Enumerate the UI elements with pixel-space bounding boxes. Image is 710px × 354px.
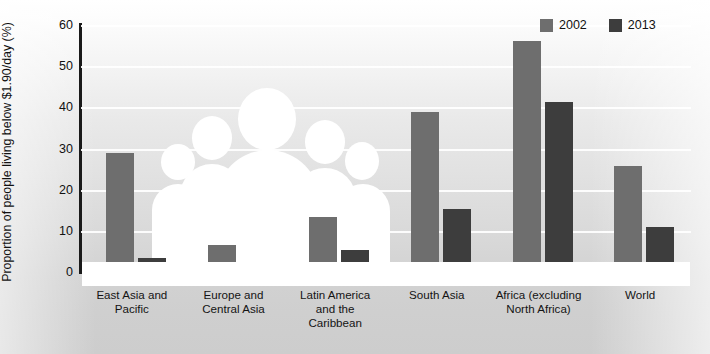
x-axis-label-5: World	[581, 288, 699, 302]
x-axis-label-1: Europe and Central Asia	[175, 288, 293, 316]
legend-label: 2002	[559, 18, 587, 32]
bar-2002-0[interactable]	[106, 153, 134, 272]
legend-swatch-icon	[540, 19, 553, 32]
plot-area: 0102030405060	[81, 25, 691, 272]
bar-2013-4[interactable]	[545, 102, 573, 272]
y-tick-label: 30	[39, 142, 73, 156]
gridline	[81, 149, 691, 151]
bar-2002-5[interactable]	[614, 166, 642, 272]
legend-label: 2013	[628, 18, 656, 32]
gridline	[81, 190, 691, 192]
y-tick-label: 60	[39, 18, 73, 32]
x-axis-labels: East Asia and PacificEurope and Central …	[81, 288, 691, 350]
y-tick-label: 40	[39, 100, 73, 114]
y-tick-label: 10	[39, 224, 73, 238]
chart-figure: Proportion of people living below $1.90/…	[0, 0, 710, 354]
y-tick-label: 20	[39, 183, 73, 197]
x-axis-label-2: Latin America and the Caribbean	[276, 288, 394, 330]
legend: 2002 2013	[540, 18, 656, 32]
x-axis-label-0: East Asia and Pacific	[73, 288, 191, 316]
legend-item-2002[interactable]: 2002	[540, 18, 587, 32]
x-axis-label-3: South Asia	[378, 288, 496, 302]
y-tick-label: 0	[39, 265, 73, 279]
gridline	[81, 107, 691, 109]
y-tick-label: 50	[39, 59, 73, 73]
baseline-band	[82, 262, 690, 286]
y-axis-title: Proportion of people living below $1.90/…	[0, 2, 20, 302]
legend-item-2013[interactable]: 2013	[609, 18, 656, 32]
gridline	[81, 66, 691, 68]
gridline	[81, 231, 691, 233]
legend-swatch-icon	[609, 19, 622, 32]
bar-2002-4[interactable]	[513, 41, 541, 272]
bar-2002-3[interactable]	[411, 112, 439, 272]
x-axis-label-4: Africa (excluding North Africa)	[480, 288, 598, 316]
